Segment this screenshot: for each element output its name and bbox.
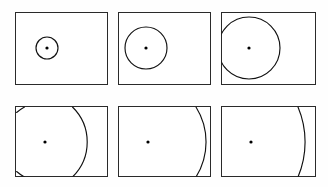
- wavefront-figure: [0, 0, 328, 187]
- figure-container: [0, 0, 328, 187]
- panel-6-source-dot: [249, 140, 252, 143]
- panel-2-source-dot: [144, 46, 147, 49]
- panel-4-source-dot: [43, 140, 46, 143]
- panel-6: [222, 107, 316, 178]
- panel-3: [218, 13, 316, 85]
- panel-5-source-dot: [146, 140, 149, 143]
- panel-2-frame: [119, 13, 211, 85]
- panel-1: [16, 13, 108, 85]
- panel-5-frame: [119, 107, 211, 177]
- panel-3-source-dot: [247, 46, 250, 49]
- panel-2: [119, 13, 211, 85]
- panel-1-source-dot: [45, 46, 48, 49]
- panel-4-frame: [16, 107, 108, 177]
- panel-1-frame: [16, 13, 108, 85]
- panel-5: [119, 107, 211, 178]
- panel-4: [16, 107, 108, 178]
